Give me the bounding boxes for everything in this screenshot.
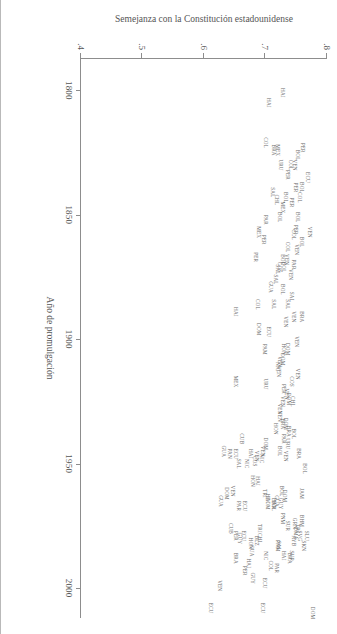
data-point-label: BOL — [276, 212, 281, 223]
data-point-label: PER — [281, 384, 286, 394]
data-point-label: URU — [263, 378, 268, 389]
x-tick-2000 — [76, 588, 81, 589]
data-point-label: BRA — [232, 553, 237, 564]
x-tick-label-1900: 1900 — [64, 330, 74, 349]
data-point-label: DOM — [280, 353, 285, 365]
data-point-label: DOM — [265, 497, 270, 509]
x-tick-1800 — [76, 90, 81, 91]
data-point-label: COL — [262, 137, 267, 148]
data-point-label: HAI — [248, 449, 253, 459]
data-point-label: ECU — [262, 578, 267, 589]
data-point-label: PER — [260, 235, 265, 245]
data-point-label: BOL — [301, 463, 306, 474]
y-tick-label-.6: .6 — [199, 43, 209, 50]
data-point-label: COL — [254, 299, 259, 310]
data-point-label: VEN — [293, 336, 298, 347]
x-tick-1950 — [76, 464, 81, 465]
data-point-label: BAR — [271, 498, 276, 509]
data-point-label: HAI — [233, 307, 238, 317]
x-tick-1850 — [76, 215, 81, 216]
data-point-label: PAR — [235, 501, 240, 511]
data-point-label: GUA — [217, 495, 222, 507]
data-point-label: SUR — [288, 551, 293, 561]
data-point-label: ECU — [259, 603, 264, 614]
data-point-label: BOL — [276, 446, 281, 457]
y-tick-.6 — [203, 53, 204, 58]
data-point-label: VEN — [217, 580, 222, 591]
data-point-label: HON — [273, 423, 278, 435]
data-point-label: COS — [288, 376, 293, 386]
data-point-label: GUA — [220, 445, 225, 457]
data-point-label: MEX — [255, 226, 260, 238]
data-point-label: ECU — [241, 501, 246, 512]
data-point-label: VEN — [283, 451, 288, 462]
data-point-label: ECU — [232, 448, 237, 459]
y-tick-label-.8: .8 — [322, 43, 332, 50]
data-point-label: HAI — [280, 551, 285, 561]
data-point-label: BRA — [270, 145, 275, 156]
data-point-label: HON — [249, 475, 254, 487]
x-axis-title: Año de promulgación — [45, 58, 55, 618]
data-point-label: PAR — [290, 260, 295, 270]
data-point-label: HAI — [280, 88, 285, 98]
data-point-label: SAL — [275, 541, 280, 551]
data-point-label: BRA — [296, 448, 301, 459]
data-point-label: BRA — [299, 311, 304, 322]
x-tick-label-1850: 1850 — [64, 205, 74, 224]
data-point-label: VEN — [295, 369, 300, 380]
data-point-label: ECU — [265, 326, 270, 337]
x-tick-label-1950: 1950 — [64, 454, 74, 473]
scatter-plot-figure: HAIHAIPERBOLURUVENCOLPERMEXBRACOLECUBOLC… — [0, 0, 337, 634]
data-point-label: VEN — [276, 411, 281, 422]
y-axis-title: Semejanza con la Constitución estadounid… — [81, 14, 327, 28]
data-point-label: PER — [252, 252, 257, 262]
data-point-label: VEN — [291, 311, 296, 322]
data-point-label: SAL — [275, 264, 280, 274]
data-point-label: ECU — [305, 172, 310, 183]
data-point-label: SAL — [270, 187, 275, 197]
data-point-label: COL — [297, 192, 302, 203]
data-point-label: URU — [278, 159, 283, 170]
y-tick-label-.7: .7 — [261, 43, 271, 50]
figure-rotator: HAIHAIPERBOLURUVENCOLPERMEXBRACOLECUBOLC… — [0, 0, 337, 634]
data-point-label: SAL — [284, 299, 289, 309]
data-point-label: PAM — [262, 344, 267, 355]
data-point-label: CUB — [228, 523, 233, 534]
x-tick-1900 — [76, 339, 81, 340]
data-point-label: PAR — [273, 563, 278, 573]
y-tick-.8 — [326, 53, 327, 58]
y-tick-.4 — [80, 53, 81, 58]
data-point-label: VEN — [283, 316, 288, 327]
data-point-label: PER — [241, 566, 246, 576]
data-point-label: GUY — [277, 498, 282, 510]
data-point-label: SLU — [303, 531, 308, 541]
data-point-label: COL — [284, 242, 289, 253]
data-point-label: ECU — [208, 603, 213, 614]
x-tick-label-1800: 1800 — [64, 81, 74, 100]
data-point-label: PER — [289, 197, 294, 207]
data-point-label: COL — [290, 229, 295, 240]
data-point-label: VEN — [229, 486, 234, 497]
y-tick-.5 — [142, 53, 143, 58]
data-point-label: PER — [284, 170, 289, 180]
data-point-label: TRI — [257, 524, 262, 533]
data-point-label: HON — [248, 538, 253, 550]
plot-area: HAIHAIPERBOLURUVENCOLPERMEXBRACOLECUBOLC… — [81, 58, 327, 618]
data-point-label: PER — [292, 183, 297, 193]
data-point-label: DOM — [255, 323, 260, 335]
data-point-label: TRI — [261, 489, 266, 498]
data-point-label: URU — [284, 438, 289, 449]
data-point-label: HAI — [265, 98, 270, 108]
data-point-label: SAL — [235, 459, 240, 469]
data-point-label: MEX — [233, 376, 238, 388]
data-point-label: SAL — [270, 299, 275, 309]
y-tick-.7 — [265, 53, 266, 58]
y-axis-line — [81, 58, 327, 59]
x-tick-label-2000: 2000 — [64, 579, 74, 598]
data-point-label: NIC — [263, 551, 268, 560]
data-point-label: BOL — [294, 212, 299, 223]
data-point-label: GUY — [249, 572, 254, 584]
data-point-label: VEN — [294, 244, 299, 255]
data-point-label: BOL — [280, 284, 285, 295]
data-point-label: VEN — [307, 227, 312, 238]
